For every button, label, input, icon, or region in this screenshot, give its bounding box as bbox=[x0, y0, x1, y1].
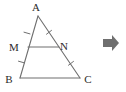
tick-mark-MB bbox=[19, 61, 25, 63]
geometry-figure: A B C M N bbox=[0, 0, 126, 92]
triangle-diagram-canvas: A B C M N bbox=[0, 0, 126, 92]
right-arrow-icon bbox=[103, 35, 119, 51]
vertex-label-B: B bbox=[5, 73, 12, 85]
vertex-label-N: N bbox=[60, 40, 68, 52]
vertex-label-A: A bbox=[32, 1, 40, 13]
right-arrow-shape bbox=[103, 35, 119, 51]
tick-mark-AM bbox=[24, 32, 30, 34]
vertex-label-M: M bbox=[9, 41, 19, 53]
tick-mark-AN bbox=[47, 30, 52, 34]
vertex-label-C: C bbox=[84, 73, 91, 85]
